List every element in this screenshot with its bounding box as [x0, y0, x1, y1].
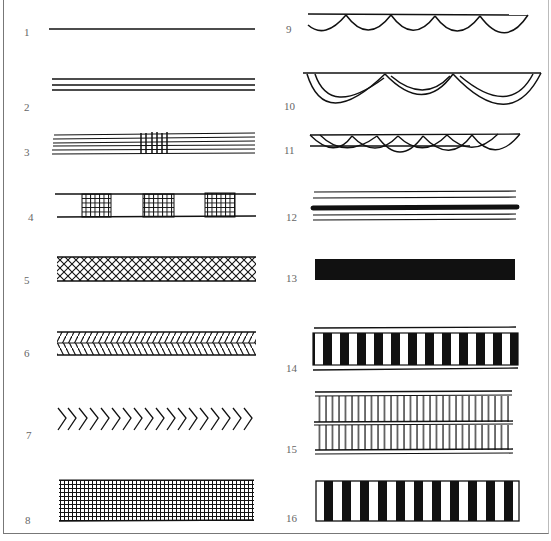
patterns-canvas — [0, 0, 551, 541]
pattern-6 — [57, 332, 256, 355]
pattern-16 — [316, 481, 519, 521]
pattern-4 — [55, 193, 256, 217]
pattern-2 — [52, 79, 255, 90]
pattern-12 — [313, 191, 517, 220]
pattern-9 — [308, 14, 528, 33]
pattern-7 — [58, 408, 252, 430]
pattern-10 — [303, 73, 541, 104]
pattern-13 — [315, 259, 515, 280]
pattern-5 — [57, 257, 256, 281]
pattern-15 — [314, 391, 513, 454]
pattern-8 — [59, 480, 254, 521]
pattern-11 — [310, 134, 520, 152]
pattern-3 — [52, 132, 255, 154]
pattern-14 — [313, 327, 518, 370]
